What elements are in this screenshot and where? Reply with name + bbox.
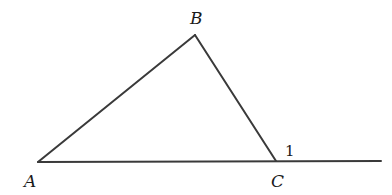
segment-ab (38, 35, 195, 162)
segment-ac-extended (38, 161, 381, 162)
triangle-diagram: A B C 1 (0, 0, 392, 195)
segment-bc (195, 35, 276, 161)
vertex-label-a: A (22, 171, 36, 191)
vertex-label-b: B (189, 8, 203, 28)
vertex-label-c: C (271, 171, 284, 191)
angle-label-1: 1 (285, 142, 295, 160)
